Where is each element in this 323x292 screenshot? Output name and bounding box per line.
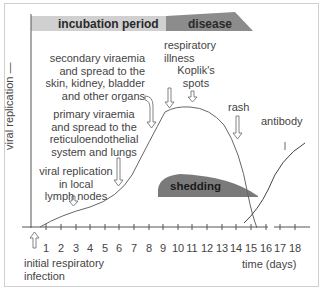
annotation-local: viral replication in local lymph nodes — [36, 165, 116, 203]
arrow-rash-icon — [233, 116, 242, 139]
annotation-line: spots — [174, 77, 218, 90]
annotation-line: system and lungs — [44, 146, 144, 159]
annotation-rash: rash — [228, 101, 249, 114]
annotation-line: and spread to the — [42, 65, 145, 78]
annotation-line: infection — [24, 270, 104, 283]
x-tick-label: 15 — [243, 242, 259, 254]
annotation-antibody: antibody — [261, 115, 303, 128]
annotation-line: lymph nodes — [36, 190, 116, 203]
x-tick-label: 6 — [111, 242, 127, 254]
x-tick-label: 17 — [272, 242, 288, 254]
annotation-line: primary viraemia — [44, 108, 144, 121]
annotation-line: secondary viraemia — [42, 52, 145, 65]
shedding-label: shedding — [170, 180, 221, 193]
annotation-line: and spread to the — [44, 121, 144, 134]
annotation-respiratory: respiratory illness — [164, 39, 216, 64]
annotation-line: illness — [164, 52, 216, 65]
x-tick-label: 12 — [199, 242, 215, 254]
y-axis-label: viral replication — — [3, 63, 15, 150]
x-tick-label: 14 — [228, 242, 244, 254]
annotation-koplik: Koplik's spots — [174, 64, 218, 89]
x-tick-label: 4 — [82, 242, 98, 254]
annotation-line: reticuloendothelial — [44, 133, 144, 146]
annotation-line: respiratory — [164, 39, 216, 52]
arrow-koplik-icon — [188, 91, 197, 102]
annotation-line: Koplik's — [174, 64, 218, 77]
annotation-line: in local — [36, 178, 116, 191]
x-axis-label: time (days) — [242, 258, 296, 271]
annotation-line: skin, kidney, bladder — [42, 77, 145, 90]
annotation-secondary: secondary viraemia and spread to the ski… — [42, 52, 145, 102]
x-tick-label: 7 — [126, 242, 142, 254]
annotation-line: and other organs — [42, 90, 145, 103]
annotation-initial: initial respiratory infection — [24, 257, 104, 282]
annotation-line: initial respiratory — [24, 257, 104, 270]
y-axis-label-text: viral replication — — [3, 63, 15, 150]
x-tick-label: 18 — [287, 242, 303, 254]
x-tick-label: 2 — [53, 242, 69, 254]
annotation-primary: primary viraemia and spread to the retic… — [44, 108, 144, 158]
arrow-secondary-icon — [145, 96, 156, 128]
incubation-period-label: incubation period — [58, 17, 159, 31]
arrow-respiratory-icon — [165, 88, 174, 108]
x-tick-label: 9 — [155, 242, 171, 254]
annotation-line: viral replication — [36, 165, 116, 178]
x-tick-label: 1 — [38, 242, 54, 254]
disease-label: disease — [188, 17, 232, 31]
antibody-curve — [244, 143, 305, 223]
x-tick-label: 11 — [184, 242, 200, 254]
